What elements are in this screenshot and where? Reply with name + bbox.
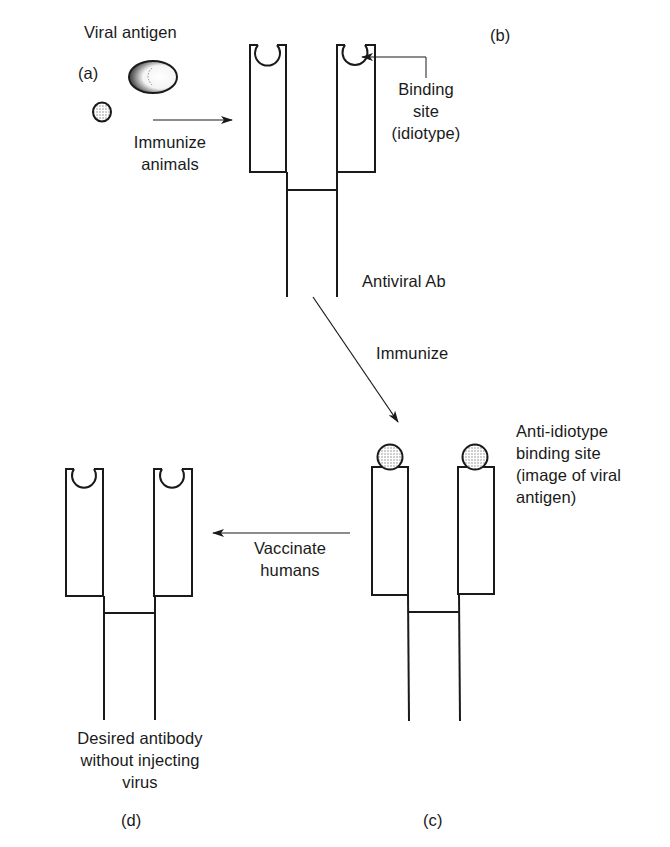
panel-tag-a: (a) (78, 62, 98, 84)
label-line: site (381, 100, 471, 122)
label-line: Desired antibody (55, 727, 225, 749)
viral-antigen-small-icon (93, 103, 111, 122)
label-line: antigen) (516, 486, 621, 508)
viral-antigen-large-icon (129, 61, 177, 93)
binding-site-pointer (362, 57, 426, 78)
panel-tag-c: (c) (423, 809, 443, 831)
anti-idiotype-knob-icon (463, 445, 488, 470)
anti-idiotype-label: Anti-idiotype binding site (image of vir… (516, 420, 621, 508)
label-line: binding site (516, 442, 621, 464)
antiviral-ab-label: Antiviral Ab (362, 270, 446, 292)
label-line: Immunize (120, 131, 220, 153)
viral-antigen-label: Viral antigen (84, 21, 177, 43)
anti-idiotype-antibody (372, 445, 494, 722)
label-line: Vaccinate (240, 537, 340, 559)
label-line: animals (120, 153, 220, 175)
label-line: (idiotype) (381, 122, 471, 144)
label-line: Anti-idiotype (516, 420, 621, 442)
anti-idiotype-knob-icon (378, 445, 403, 470)
label-line: without injecting (55, 749, 225, 771)
label-line: Binding (381, 78, 471, 100)
desired-antibody (66, 469, 192, 720)
antiviral-antibody (250, 45, 375, 297)
panel-tag-b: (b) (490, 24, 510, 46)
binding-site-label: Binding site (idiotype) (381, 78, 471, 144)
desired-antibody-label: Desired antibody without injecting virus (55, 727, 225, 793)
panel-tag-d: (d) (121, 809, 141, 831)
label-line: (image of viral (516, 464, 621, 486)
label-line: virus (55, 771, 225, 793)
label-line: humans (240, 559, 340, 581)
vaccinate-humans-label: Vaccinate humans (240, 537, 340, 581)
immunize-label: Immunize (376, 342, 448, 364)
immunize-animals-label: Immunize animals (120, 131, 220, 175)
